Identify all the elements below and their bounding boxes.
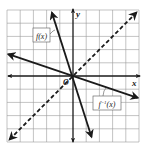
f-label: f(x) [36, 32, 47, 41]
f-label-callout: f(x) [33, 28, 55, 42]
origin-label: O [63, 78, 69, 87]
x-axis-label: x [131, 78, 137, 88]
y-axis-label: y [75, 9, 81, 19]
inverse-function-graph: f(x) f−1(x) y x O [0, 0, 146, 152]
